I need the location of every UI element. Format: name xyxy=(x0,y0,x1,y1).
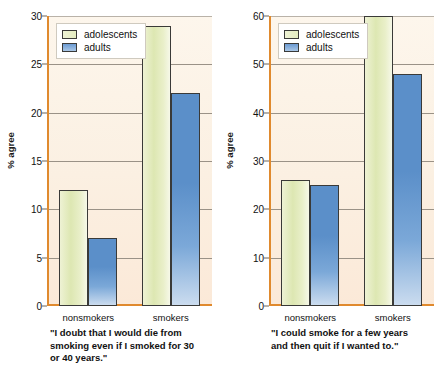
y-axis-tick-label: 20 xyxy=(253,204,264,215)
legend-swatch-adults-icon xyxy=(284,43,299,52)
plot-area-right: adolescents adults 0102030405060nonsmoke… xyxy=(269,16,434,306)
caption-right: "I could smoke for a few years and then … xyxy=(271,327,439,352)
legend-label-adults: adults xyxy=(84,42,111,53)
legend-swatch-adults-icon xyxy=(62,43,77,52)
bar-adults-smokers[interactable] xyxy=(393,74,422,306)
y-axis-tick-label: 30 xyxy=(253,156,264,167)
bar-group xyxy=(364,16,422,306)
y-axis-tick-mark xyxy=(42,112,47,113)
legend-label-adolescents: adolescents xyxy=(84,29,137,40)
x-axis-tick-label: smokers xyxy=(153,312,189,323)
y-axis-tick-label: 10 xyxy=(31,204,42,215)
chart-panel-right: % agree adolescents adults 0102030405060… xyxy=(219,0,439,377)
bar-adults-nonsmokers[interactable] xyxy=(88,238,117,306)
plot-area-left: adolescents adults 051015202530nonsmoker… xyxy=(47,16,212,306)
y-axis-tick-mark xyxy=(264,209,269,210)
bar-adults-smokers[interactable] xyxy=(171,93,200,306)
legend-item-adolescents: adolescents xyxy=(284,28,359,41)
y-axis-tick-label: 40 xyxy=(253,107,264,118)
caption-line-2: and then quit if I wanted to." xyxy=(271,340,439,353)
y-axis-tick-mark xyxy=(264,306,269,307)
bar-adolescents-nonsmokers[interactable] xyxy=(281,180,310,306)
y-axis-tick-label: 25 xyxy=(31,59,42,70)
bar-adolescents-nonsmokers[interactable] xyxy=(59,190,88,306)
bar-group xyxy=(142,16,200,306)
y-axis-tick-mark xyxy=(264,16,269,17)
legend-left: adolescents adults xyxy=(56,23,146,59)
bar-adults-nonsmokers[interactable] xyxy=(310,185,339,306)
legend-right: adolescents adults xyxy=(278,23,368,59)
legend-swatch-adolescents-icon xyxy=(62,30,77,39)
caption-line-3: or 40 years." xyxy=(50,352,217,365)
bar-adolescents-smokers[interactable] xyxy=(364,16,393,306)
x-axis-tick-label: nonsmokers xyxy=(62,312,114,323)
y-axis-tick-label: 10 xyxy=(253,252,264,263)
chart-panel-left: % agree adolescents adults 051015202530n… xyxy=(0,0,219,377)
y-axis-title-right: % agree xyxy=(221,0,237,300)
two-panel-bar-chart-figure: % agree adolescents adults 051015202530n… xyxy=(0,0,439,377)
y-axis-tick-mark xyxy=(42,16,47,17)
y-axis-tick-mark xyxy=(42,306,47,307)
y-axis-tick-mark xyxy=(264,161,269,162)
y-axis-tick-label: 20 xyxy=(31,107,42,118)
caption-line-2: smoking even if I smoked for 30 xyxy=(50,340,217,353)
caption-line-1: "I could smoke for a few years xyxy=(271,327,439,340)
legend-label-adolescents: adolescents xyxy=(306,29,359,40)
caption-line-1: "I doubt that I would die from xyxy=(50,327,217,340)
y-axis-tick-mark xyxy=(42,161,47,162)
legend-item-adults: adults xyxy=(62,41,137,54)
legend-label-adults: adults xyxy=(306,42,333,53)
bar-group xyxy=(59,16,117,306)
y-axis-tick-mark xyxy=(42,257,47,258)
legend-item-adolescents: adolescents xyxy=(62,28,137,41)
legend-swatch-adolescents-icon xyxy=(284,30,299,39)
y-axis-tick-label: 50 xyxy=(253,59,264,70)
y-axis-tick-mark xyxy=(264,257,269,258)
y-axis-tick-mark xyxy=(264,112,269,113)
y-axis-tick-label: 60 xyxy=(253,11,264,22)
x-axis-tick-label: smokers xyxy=(375,312,411,323)
y-axis-tick-mark xyxy=(264,64,269,65)
caption-left: "I doubt that I would die from smoking e… xyxy=(50,327,217,365)
y-axis-title-left: % agree xyxy=(2,0,18,300)
y-axis-tick-label: 15 xyxy=(31,156,42,167)
legend-item-adults: adults xyxy=(284,41,359,54)
bar-group xyxy=(281,16,339,306)
y-axis-tick-label: 30 xyxy=(31,11,42,22)
bar-adolescents-smokers[interactable] xyxy=(142,26,171,306)
y-axis-tick-mark xyxy=(42,209,47,210)
x-axis-tick-label: nonsmokers xyxy=(284,312,336,323)
y-axis-tick-mark xyxy=(42,64,47,65)
